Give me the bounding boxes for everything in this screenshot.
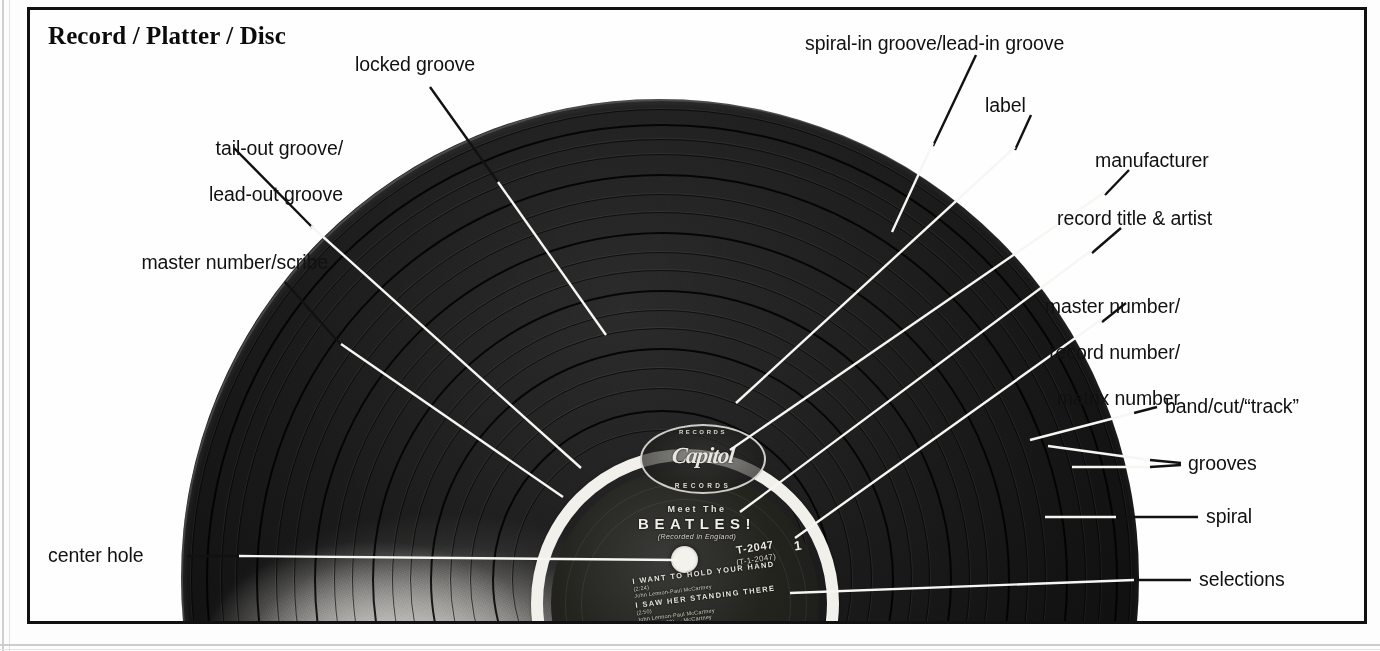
track-entry: I WANT TO HOLD YOUR HAND (2:24) John Len… (632, 555, 813, 599)
logo-script-text: Capitol (641, 444, 765, 467)
groove-ring (334, 252, 988, 621)
leader-locked-groove-dark (430, 87, 500, 185)
annotation-label: label (985, 94, 1026, 117)
track-credit: John Lennon-Paul McCartney (637, 594, 816, 621)
label-white-rim (531, 449, 839, 621)
leader-label-dark (1015, 115, 1031, 150)
track-title: I WANT TO HOLD YOUR HAND (632, 555, 812, 586)
groove-ring (294, 212, 1028, 621)
groove-ring (352, 270, 970, 621)
annotation-tail-out-groove: tail-out groove/ lead-out groove (60, 114, 343, 229)
record-label-paper (551, 469, 819, 621)
record-center-hole (671, 546, 698, 573)
track-credit: (2:50) (636, 588, 815, 616)
annotation-record-title-artist: record title & artist (1057, 207, 1212, 230)
groove-ring (470, 388, 852, 621)
leader-master-scribe-dark (285, 282, 343, 347)
leader-master-scribe-light (341, 344, 563, 497)
groove-ring (410, 328, 912, 621)
leader-selections-light (790, 580, 1134, 593)
figure-title: Record / Platter / Disc (48, 22, 286, 50)
scan-edge-left-mark-2 (9, 0, 10, 651)
groove-ring (392, 310, 930, 621)
scan-edge-left-mark (2, 0, 4, 651)
leader-grooves-light-a (1048, 446, 1150, 460)
leader-spiral-in-dark (933, 55, 976, 146)
band-separator-ring (314, 232, 1010, 621)
annotation-tail-out-groove-line1: tail-out groove/ (216, 137, 343, 159)
track-credit: John Lennon-Paul McCartney (634, 570, 813, 598)
annotation-matrix-line1: master number/ (1045, 295, 1180, 317)
label-ring-line (565, 483, 807, 621)
recorded-in-england-note: (Recorded in England) (30, 533, 1364, 540)
annotation-master-record-matrix: master number/ record number/ matrix num… (930, 272, 1180, 433)
annotation-matrix-line2: record number/ (1049, 341, 1180, 363)
groove-ring (512, 430, 810, 621)
annotation-selections: selections (1199, 568, 1285, 591)
locked-groove-ring (492, 410, 832, 621)
page-canvas: Record / Platter / Disc (0, 0, 1380, 651)
scan-edge-bottom-mark-2 (0, 649, 1380, 650)
scan-edge-bottom-mark (0, 644, 1380, 646)
leader-center-hole-light (239, 556, 678, 560)
album-prefix-text: Meet The (30, 504, 1364, 514)
annotation-locked-groove: locked groove (355, 53, 475, 76)
label-track-listing: I WANT TO HOLD YOUR HAND (2:24) John Len… (632, 555, 817, 621)
leader-grooves-dark-a (1150, 460, 1181, 463)
leader-spiral-in-light (892, 143, 933, 232)
catalog-number-text: T-2047 (735, 538, 774, 556)
leader-manufacturer-dark (1105, 170, 1129, 195)
annotation-band-cut-track: band/cut/“track” (1165, 395, 1299, 418)
annotation-spiral-in-groove: spiral-in groove/lead-in groove (805, 32, 1064, 55)
track-title: I SAW HER STANDING THERE (635, 579, 815, 610)
annotation-manufacturer: manufacturer (1095, 149, 1209, 172)
figure-frame: Record / Platter / Disc (27, 7, 1367, 624)
track-credit: (ASCAP 2:33) — McCartney (638, 601, 817, 621)
annotation-center-hole: center hole (48, 544, 143, 567)
annotation-tail-out-groove-line2: lead-out groove (209, 183, 343, 205)
annotation-master-number-scribe: master number/scribe (30, 251, 328, 274)
label-ring-line (581, 499, 791, 621)
annotation-matrix-line3: matrix number (1057, 387, 1180, 409)
catalog-subnumber-text: (T-1-2047) (736, 552, 777, 567)
leader-record-title-dark (1092, 228, 1121, 253)
album-title-text: BEATLES! (30, 515, 1364, 532)
groove-ring (450, 368, 872, 621)
annotation-spiral: spiral (1206, 505, 1252, 528)
track-credit: (2:24) (633, 564, 812, 592)
leader-locked-groove-light (498, 182, 606, 335)
band-separator-ring (372, 290, 952, 621)
leader-grooves-dark-b (1150, 465, 1181, 467)
track-entry: I SAW HER STANDING THERE (2:50) John Len… (635, 579, 817, 621)
side-mark-text: 1 (793, 538, 802, 554)
leader-tail-out-light (311, 226, 581, 468)
band-separator-ring (430, 348, 894, 621)
annotation-grooves: grooves (1188, 452, 1257, 475)
logo-bottom-text: RECORDS (642, 482, 764, 489)
capitol-records-logo: RECORDS Capitol RECORDS (640, 424, 766, 494)
logo-top-text: RECORDS (642, 429, 764, 435)
